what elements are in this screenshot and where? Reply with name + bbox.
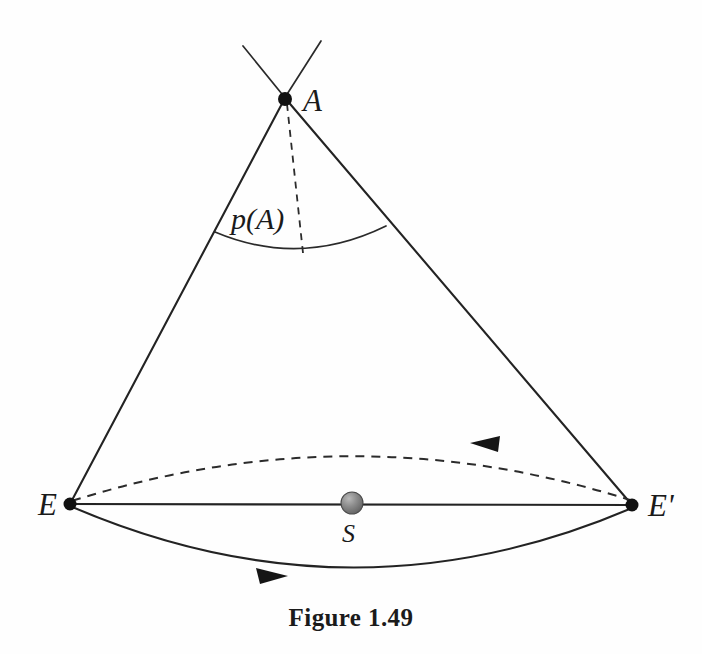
point-E-dot [64,498,77,511]
label-sphere-S: S [342,519,355,548]
geometry-diagram: A p(A) E E' S [0,0,702,654]
cone-edge-left [70,98,285,504]
orbit-near-arrow-icon [256,568,288,584]
label-angle-pA: p(A) [229,202,284,236]
cone-edge-right [285,98,632,505]
apex-axis-dashed-line [287,104,303,253]
point-Eprime-dot [626,499,639,512]
label-point-E: E [37,487,57,522]
label-point-A: A [301,83,323,118]
orbit-far-arrow-icon [470,436,500,452]
figure-container: A p(A) E E' S Figure 1.49 [0,0,702,654]
sphere-S-body [341,492,363,514]
point-A-dot [278,92,292,106]
figure-caption: Figure 1.49 [0,604,702,632]
left-ray-extension [243,46,286,99]
label-point-Eprime: E' [647,488,675,523]
